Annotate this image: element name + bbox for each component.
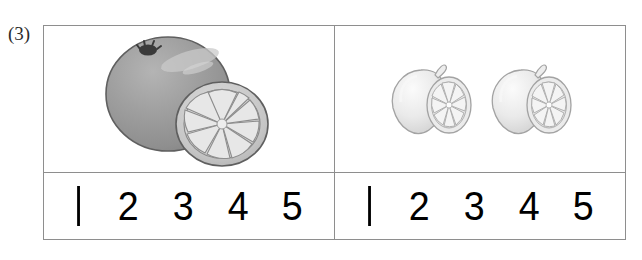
orange-picture-stage — [44, 26, 334, 172]
whole-orange-icon — [90, 32, 290, 172]
picture-cell-left — [44, 26, 335, 172]
picture-cell-right — [335, 26, 625, 172]
number-choice-strip-right: 1 2 3 4 5 — [335, 173, 625, 239]
number-choice-3[interactable]: 3 — [463, 186, 484, 226]
numbers-cell-right: 1 2 3 4 5 — [335, 173, 625, 239]
lemon-half-slice-icon — [527, 77, 571, 133]
lemon-pair-icon — [483, 58, 581, 144]
number-choice-2[interactable]: 2 — [409, 186, 430, 226]
number-choice-3[interactable]: 3 — [172, 186, 193, 226]
lemon-half-slice-icon — [427, 77, 471, 133]
number-choice-1[interactable]: 1 — [75, 186, 84, 226]
orange-half-slice-icon — [176, 82, 268, 166]
number-choice-4[interactable]: 4 — [227, 186, 248, 226]
number-choice-5[interactable]: 5 — [282, 186, 303, 226]
lemon-picture-stage — [335, 26, 625, 172]
number-choice-strip-left: 1 2 3 4 5 — [44, 173, 334, 239]
question-number-label: (3) — [8, 24, 30, 43]
numbers-row: 1 2 3 4 5 1 2 3 4 5 — [44, 172, 625, 239]
answer-table: 1 2 3 4 5 1 2 3 4 5 — [43, 25, 626, 240]
numbers-cell-left: 1 2 3 4 5 — [44, 173, 335, 239]
number-choice-5[interactable]: 5 — [573, 186, 594, 226]
number-choice-1[interactable]: 1 — [366, 186, 375, 226]
lemon-pair-icon — [383, 58, 481, 144]
number-choice-4[interactable]: 4 — [518, 186, 539, 226]
worksheet-root: (3) — [0, 0, 642, 260]
picture-row — [44, 26, 625, 172]
number-choice-2[interactable]: 2 — [118, 186, 139, 226]
